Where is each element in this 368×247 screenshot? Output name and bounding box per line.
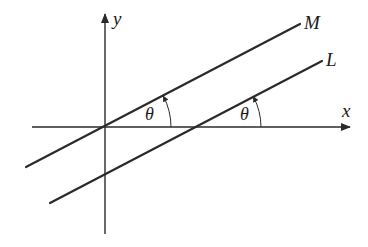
line-m	[26, 24, 300, 167]
line-l-label: L	[326, 50, 337, 69]
line-m-label: M	[304, 13, 320, 32]
parallel-lines-diagram	[0, 0, 368, 247]
angle-arc-l	[254, 97, 262, 127]
theta-label-l: θ	[240, 105, 249, 123]
angle-arc-m	[164, 97, 172, 128]
y-axis-label: y	[113, 9, 121, 28]
x-axis-label: x	[342, 101, 350, 120]
theta-label-m: θ	[145, 105, 154, 123]
